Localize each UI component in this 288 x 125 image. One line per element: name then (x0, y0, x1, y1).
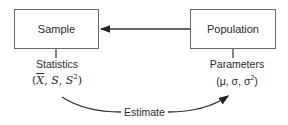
population-node: Population (190, 9, 276, 49)
estimate-label: Estimate (122, 106, 167, 118)
parameters-formula: (μ, σ, σ2) (197, 71, 277, 88)
sample-mean-symbol: X (36, 74, 44, 87)
sample-node: Sample (14, 9, 99, 49)
statistics-annotation: Statistics (X, S, S2) (22, 58, 92, 87)
parameters-annotation: Parameters (μ, σ, σ2) (197, 58, 277, 88)
estimate-curve-right (168, 96, 228, 112)
estimate-curve-left (62, 97, 121, 112)
statistics-title: Statistics (22, 58, 92, 71)
statistics-formula: (X, S, S2) (22, 71, 92, 87)
sample-label: Sample (38, 23, 75, 35)
sample-sd-symbol: S (51, 74, 59, 87)
population-label: Population (207, 23, 259, 35)
parameters-title: Parameters (197, 58, 277, 71)
